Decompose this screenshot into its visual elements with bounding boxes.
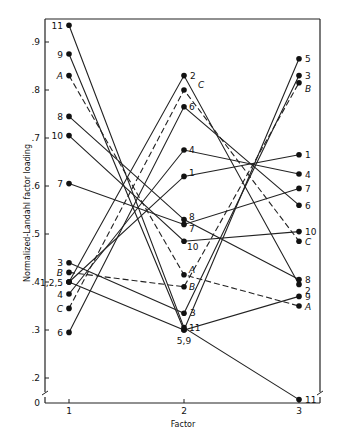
y-tick-label-zero: 0 [34,398,40,408]
y-tick-label: .2 [31,373,40,383]
data-point [181,87,187,93]
point-label: 1,2,5 [40,278,63,288]
point-label: B [305,84,311,94]
data-point [296,186,302,192]
data-point [296,73,302,79]
data-point [181,104,187,110]
point-label: A [304,302,311,312]
data-point [296,171,302,177]
data-point [66,73,72,79]
line-chart: .2.3.4.5.6.7.8.90 123 119A81073B1,2,54C6… [0,0,340,439]
data-point [66,291,72,297]
data-point [66,114,72,120]
data-point [181,222,187,228]
y-axis: .2.3.4.5.6.7.8.90 [31,37,49,408]
point-label: 10 [187,242,199,252]
data-point [181,325,187,331]
point-label: B [57,268,63,278]
y-tick-label: .5 [31,229,40,239]
point-label: 9 [57,50,63,60]
data-point [181,217,187,223]
point-label: C [198,80,205,90]
point-label: 4 [57,290,63,300]
point-label: 5 [305,54,311,64]
data-point [181,284,187,290]
x-tick-label: 1 [66,406,72,416]
point-label: 2 [190,71,196,81]
point-label: 3 [305,71,311,81]
point-label: 8 [305,275,311,285]
data-point [66,260,72,266]
data-point [296,277,302,283]
data-point [181,147,187,153]
point-label: 4 [305,170,311,180]
data-point [66,306,72,312]
data-point [181,174,187,180]
data-point [181,272,187,278]
point-label: 10 [305,227,317,237]
y-tick-label: .8 [31,85,40,95]
point-labels: 119A81073B1,2,54C62C6418710AB3115,953B14… [40,21,317,405]
data-point [296,229,302,235]
data-point [66,133,72,139]
y-axis-label: Normalized-Landahl factor loading [23,144,32,282]
y-tick-label: .6 [31,181,40,191]
point-label: 1 [305,150,311,160]
y-tick-label: .7 [31,133,40,143]
data-point [181,238,187,244]
data-point [296,202,302,208]
point-label: 6 [305,201,311,211]
data-point [296,397,302,403]
data-point [181,310,187,316]
y-tick-label: .3 [31,325,40,335]
point-label: 5,9 [177,336,192,346]
data-point [296,303,302,309]
point-label: 10 [52,131,64,141]
point-label: 3 [190,308,196,318]
data-point [296,294,302,300]
point-label: 3 [57,258,63,268]
point-label: 1 [189,168,195,178]
point-label: 7 [189,224,195,234]
point-label: 6 [189,102,195,112]
point-label: 11 [305,395,316,405]
point-label: B [189,282,195,292]
point-label: 6 [57,328,63,338]
point-label: 11 [52,21,63,31]
x-tick-label: 3 [296,406,302,416]
x-axis: 123 [66,399,302,416]
point-label: C [305,237,312,247]
data-point [66,181,72,187]
point-label: 8 [189,212,195,222]
data-point [66,330,72,336]
y-tick-label: .4 [31,277,40,287]
point-label: A [188,265,195,275]
data-point [296,56,302,62]
data-point [296,238,302,244]
point-label: C [57,304,64,314]
point-label: 9 [305,292,311,302]
point-label: 7 [305,184,311,194]
data-point [181,73,187,79]
data-point [66,279,72,285]
data-point [296,80,302,86]
point-label: 8 [57,112,63,122]
point-label: A [56,71,63,81]
point-label: 7 [57,179,63,189]
x-tick-label: 2 [181,406,187,416]
series-line-A [69,76,299,306]
data-point [66,270,72,276]
data-point [66,22,72,28]
point-label: 4 [189,145,195,155]
point-label: 11 [189,323,200,333]
data-point [66,51,72,57]
x-axis-label: Factor [171,420,196,429]
data-point [296,152,302,158]
series-line-B [69,83,299,287]
data-point [296,282,302,288]
y-tick-label: .9 [31,37,40,47]
